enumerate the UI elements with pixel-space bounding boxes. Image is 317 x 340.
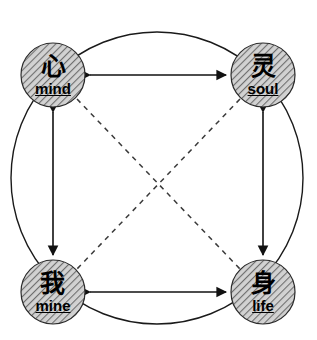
node-life[interactable]	[231, 260, 295, 324]
diagram-canvas: 心 mind 灵 soul 我 mine 身 life	[0, 0, 317, 340]
node-mine[interactable]	[21, 260, 85, 324]
node-mind[interactable]	[21, 43, 85, 107]
diagram-svg	[0, 0, 317, 340]
node-soul[interactable]	[231, 43, 295, 107]
